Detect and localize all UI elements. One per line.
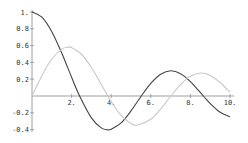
chart: 2.4.6.8.10.1.0.80.60.40.2-0.2-0.4 [0, 0, 248, 143]
y-tick-label: 0.4 [16, 59, 29, 67]
x-tick-label: 10. [224, 99, 237, 107]
series-line-besselj1 [32, 47, 230, 126]
x-tick-label: 8. [186, 99, 194, 107]
y-tick-label: 0.6 [16, 42, 29, 50]
x-tick-label: 6. [147, 99, 155, 107]
axes: 2.4.6.8.10.1.0.80.60.40.2-0.2-0.4 [12, 9, 236, 135]
y-tick-label: -0.4 [12, 126, 29, 134]
y-tick-label: 1. [21, 9, 29, 17]
series-lines [32, 12, 230, 130]
plot-area: 2.4.6.8.10.1.0.80.60.40.2-0.2-0.4 [0, 0, 248, 143]
y-tick-label: -0.2 [12, 109, 29, 117]
y-tick-label: 0.8 [16, 25, 29, 33]
y-tick-label: 0.2 [16, 76, 29, 84]
x-tick-label: 2. [67, 99, 75, 107]
series-line-besselj0 [32, 12, 230, 130]
